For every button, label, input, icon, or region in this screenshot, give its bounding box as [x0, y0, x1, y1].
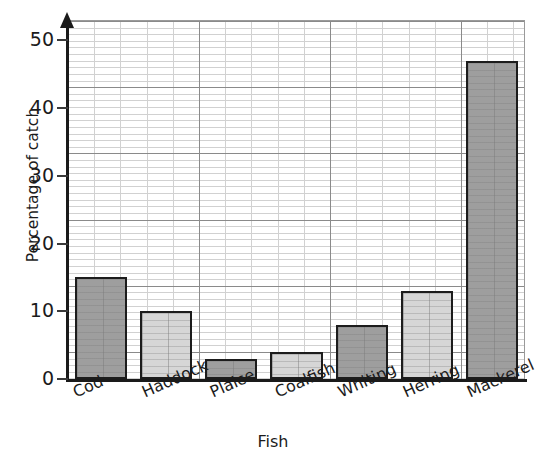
y-axis-line — [66, 26, 69, 381]
bar-grid-overlay — [468, 63, 516, 377]
y-tick-30 — [57, 175, 68, 177]
bar-grid-overlay — [77, 279, 125, 377]
bar-cod — [75, 277, 127, 379]
y-tick-label-50: 50 — [10, 30, 54, 49]
y-tick-10 — [57, 310, 68, 312]
bar-mackerel — [466, 61, 518, 379]
bar-chart: 01020304050 CodHaddockPlaiceCoalfishWhit… — [0, 0, 546, 467]
x-axis-title: Fish — [0, 432, 546, 451]
bars-layer — [68, 20, 525, 379]
y-axis-title: Percentage of catch — [24, 60, 42, 310]
y-tick-50 — [57, 39, 68, 41]
up-arrow-icon — [60, 12, 74, 28]
y-tick-40 — [57, 107, 68, 109]
y-tick-0 — [57, 378, 68, 380]
y-tick-20 — [57, 243, 68, 245]
y-tick-label-0: 0 — [10, 369, 54, 388]
